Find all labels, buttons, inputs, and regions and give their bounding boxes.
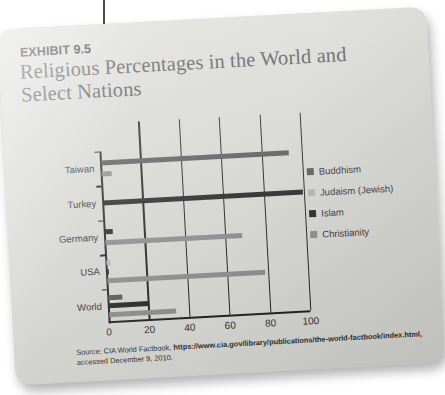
legend-swatch-icon [309,210,316,217]
category-label-world: World [30,300,102,315]
plot-area: 020406080100 [99,141,310,324]
category-label-usa: USA [28,266,100,281]
x-tick-label-40: 40 [184,322,196,334]
y-tick-taiwan [94,152,99,154]
source-url-line2: index.html, [383,329,422,340]
legend-swatch-icon [307,168,314,175]
bar-world-buddhism [108,294,122,300]
x-tick-label-20: 20 [144,324,156,336]
gridline-20 [138,121,150,319]
gridline-60 [219,117,231,315]
bar-turkey-islam [103,190,303,206]
category-label-turkey: Turkey [24,197,96,212]
y-tick-world [102,289,107,291]
y-tick-turkey [96,186,101,188]
bar-world-islam [109,301,150,308]
bar-taiwan-buddhism [101,150,289,165]
gridline-80 [259,115,271,313]
gridlines [99,141,301,152]
bar-germany-islam [105,229,113,234]
x-tick-label-100: 100 [302,315,319,327]
bar-chart: 020406080100 TaiwanTurkeyGermanyUSAWorld [21,128,332,349]
legend-swatch-icon [308,189,315,196]
y-tick-germany [98,220,103,222]
bar-taiwan-christianity [102,171,112,177]
x-axis-tick-labels: 020406080100 [99,141,301,152]
chart-legend: BuddhismJudaism (Jewish)IslamChristianit… [306,155,430,245]
legend-label: Judaism (Jewish) [320,183,394,198]
bar-germany-christianity [105,233,242,245]
y-tick-usa [100,255,105,257]
bar-usa-islam [107,269,109,274]
y-axis-ticks [99,141,301,152]
legend-swatch-icon [310,231,317,238]
legend-label: Christianity [322,226,370,240]
category-label-taiwan: Taiwan [22,163,94,178]
legend-label: Buddhism [319,163,362,176]
bar-usa-judaism-jewish [106,260,110,265]
x-tick-label-60: 60 [224,319,236,331]
bar-series-container [99,141,301,152]
legend-label: Islam [321,206,344,218]
bar-world-christianity [109,309,176,318]
x-tick-label-0: 0 [106,326,112,337]
x-tick-label-80: 80 [265,317,277,329]
category-label-germany: Germany [26,232,98,247]
exhibit-page-card: EXHIBIT 9.5 Religious Percentages in the… [0,7,445,386]
gridline-40 [179,119,191,317]
